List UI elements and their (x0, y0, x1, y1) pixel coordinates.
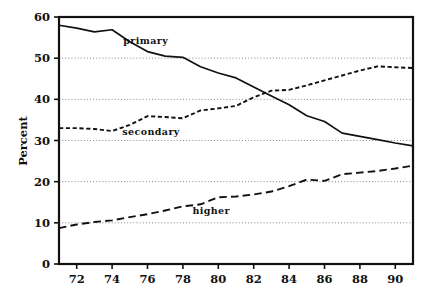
y-tick-label-30: 30 (34, 134, 50, 148)
series-label-primary: primary (123, 35, 168, 46)
x-axis-tick-labels: 72747678808284868890 (69, 272, 404, 286)
y-tick-label-10: 10 (34, 216, 50, 230)
line-chart: 0102030405060 72747678808284868890 Perce… (0, 0, 425, 298)
x-tick-label-86: 86 (316, 272, 332, 286)
x-tick-label-76: 76 (139, 272, 155, 286)
series-line-secondary (59, 66, 413, 131)
x-tick-label-88: 88 (352, 272, 368, 286)
x-tick-label-82: 82 (246, 272, 262, 286)
series-label-secondary: secondary (122, 126, 179, 137)
series-annotations: primarysecondaryhigher (122, 35, 230, 216)
y-tick-label-60: 60 (34, 10, 50, 24)
x-tick-label-72: 72 (69, 272, 85, 286)
series-label-higher: higher (192, 205, 230, 216)
y-tick-label-40: 40 (34, 92, 50, 106)
gridlines (59, 58, 413, 223)
y-axis-title: Percent (16, 115, 30, 165)
y-tick-label-20: 20 (34, 175, 50, 189)
x-tick-label-84: 84 (281, 272, 297, 286)
x-tick-label-90: 90 (387, 272, 403, 286)
y-tick-label-50: 50 (34, 51, 50, 65)
x-tick-label-80: 80 (210, 272, 226, 286)
x-tick-label-74: 74 (104, 272, 120, 286)
series-line-primary (59, 25, 413, 146)
x-tick-label-78: 78 (175, 272, 191, 286)
y-tick-label-0: 0 (42, 257, 50, 271)
series-line-higher (59, 166, 413, 229)
chart-screenshot: 0102030405060 72747678808284868890 Perce… (0, 0, 425, 298)
y-axis-tick-labels: 0102030405060 (34, 10, 50, 271)
